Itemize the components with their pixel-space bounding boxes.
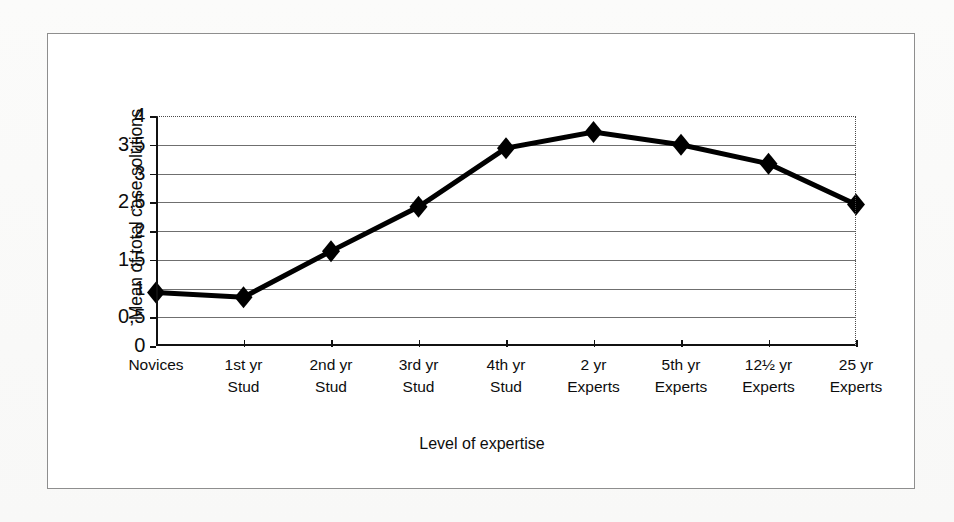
y-axis-tick-label: 4 [134, 104, 145, 127]
x-axis-category-label: 25 yrExperts [830, 354, 883, 398]
x-axis-category-label-line: Stud [487, 376, 526, 398]
y-axis-tick-label: 2,5 [118, 190, 145, 213]
x-axis-category-label: 5th yrExperts [655, 354, 708, 398]
data-point-marker [410, 196, 428, 218]
x-axis-category-label-line: 2 yr [567, 354, 620, 376]
x-axis-category-label-line: 5th yr [655, 354, 708, 376]
x-axis-category-label: 12½ yrExperts [742, 354, 795, 398]
x-axis-category-label-line: 4th yr [487, 354, 526, 376]
y-axis-tick-label: 1 [134, 277, 145, 300]
x-axis-category-label: 2 yrExperts [567, 354, 620, 398]
x-axis-category-label-line: Novices [128, 354, 183, 376]
data-point-marker [497, 137, 515, 159]
data-point-marker [235, 286, 253, 308]
data-point-marker [847, 194, 865, 216]
x-axis-tick [856, 340, 858, 347]
series-markers-group [147, 121, 865, 308]
data-point-marker [585, 121, 603, 143]
x-axis-category-label-line: Stud [399, 376, 439, 398]
x-axis-category-label-line: 2nd yr [309, 354, 352, 376]
x-axis-category-label-line: 3rd yr [399, 354, 439, 376]
x-axis-category-label-line: 1st yr [225, 354, 263, 376]
plot-area: 00,511,522,533,54 Novices1st yrStud2nd y… [156, 116, 856, 346]
data-point-marker [760, 153, 778, 175]
y-axis-tick-label: 3 [134, 162, 145, 185]
x-axis-category-label: Novices [128, 354, 183, 376]
x-axis-category-label-line: Stud [225, 376, 263, 398]
data-point-marker [672, 134, 690, 156]
x-axis-category-label: 4th yrStud [487, 354, 526, 398]
x-axis-category-label-line: Experts [655, 376, 708, 398]
y-axis-tick-label: 3,5 [118, 133, 145, 156]
figure-frame: Mean of total case solutions 00,511,522,… [47, 33, 915, 489]
x-axis-category-label: 3rd yrStud [399, 354, 439, 398]
y-axis-tick [150, 346, 156, 348]
y-axis-tick-label: 2 [134, 219, 145, 242]
x-axis-category-label: 1st yrStud [225, 354, 263, 398]
data-point-marker [322, 240, 340, 262]
x-axis-category-label-line: Experts [830, 376, 883, 398]
x-axis-category-label-line: Stud [309, 376, 352, 398]
x-axis-title: Level of expertise [48, 435, 916, 453]
x-axis-category-label: 2nd yrStud [309, 354, 352, 398]
y-axis-tick-label: 0,5 [118, 305, 145, 328]
x-axis-category-label-line: 25 yr [830, 354, 883, 376]
x-axis-category-label-line: Experts [742, 376, 795, 398]
line-series-svg [156, 116, 856, 346]
x-axis-category-label-line: Experts [567, 376, 620, 398]
x-axis-category-label-line: 12½ yr [742, 354, 795, 376]
data-point-marker [147, 282, 165, 304]
y-axis-tick-label: 1,5 [118, 248, 145, 271]
